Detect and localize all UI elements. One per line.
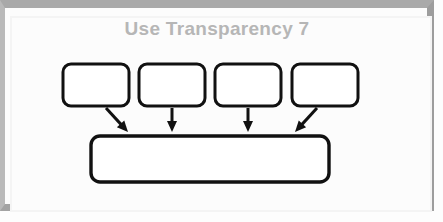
flow-arrow-3 bbox=[243, 108, 253, 132]
flow-arrow-4 bbox=[295, 108, 317, 132]
arrow-head-2 bbox=[167, 121, 177, 132]
arrow-group bbox=[106, 108, 317, 132]
flow-diagram bbox=[7, 10, 427, 204]
flow-box-1[interactable] bbox=[63, 64, 129, 106]
flow-box-result[interactable] bbox=[91, 136, 329, 182]
top-box-group bbox=[63, 64, 358, 106]
flow-arrow-2 bbox=[167, 108, 177, 132]
flow-arrow-1 bbox=[106, 108, 128, 132]
paper-edge-bottom bbox=[0, 211, 443, 222]
paper-edge-right bbox=[434, 0, 443, 222]
flow-diagram-canvas bbox=[7, 10, 427, 204]
arrow-head-3 bbox=[243, 121, 253, 132]
slide-content-area: Use Transparency 7 bbox=[7, 10, 427, 204]
flow-box-4[interactable] bbox=[292, 64, 358, 106]
scanned-slide-page: Use Transparency 7 bbox=[0, 0, 443, 222]
flow-box-3[interactable] bbox=[215, 64, 281, 106]
flow-box-2[interactable] bbox=[139, 64, 205, 106]
